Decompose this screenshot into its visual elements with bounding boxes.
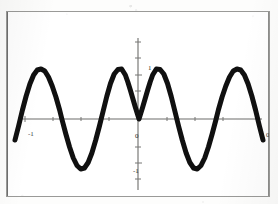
scanned-page: 1 -1 0 -1 0: [0, 0, 278, 204]
y-axis-label-positive-one: 1: [148, 65, 151, 72]
plot-canvas: [7, 12, 270, 197]
plot-frame: 1 -1 0 -1 0: [6, 11, 270, 197]
x-axis-label-left: -1: [28, 131, 33, 138]
origin-label: 0: [135, 133, 138, 140]
y-axis-label-negative-one: -1: [133, 168, 138, 175]
x-axis-label-right: 0: [266, 132, 269, 139]
